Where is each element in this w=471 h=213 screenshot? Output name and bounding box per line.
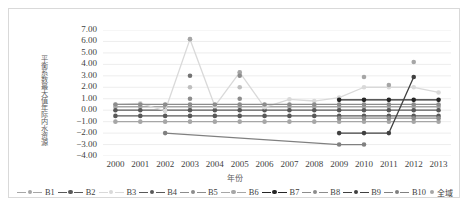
legend-label: B10 — [412, 188, 426, 197]
legend-item[interactable]: B3 — [99, 188, 137, 197]
legend-marker-icon — [231, 190, 235, 194]
data-point — [411, 98, 416, 103]
y-tick-label: 7.00 — [81, 25, 97, 34]
data-point — [262, 119, 267, 124]
data-point — [213, 108, 218, 113]
legend-item[interactable]: B5 — [180, 188, 218, 197]
data-point — [362, 131, 367, 136]
y-tick-label: −4.00 — [76, 151, 97, 160]
data-point — [411, 60, 416, 65]
data-point — [362, 116, 367, 121]
data-point — [138, 102, 143, 107]
legend-line-icon — [343, 192, 352, 193]
data-point — [411, 85, 416, 90]
legend-item[interactable]: B2 — [58, 188, 96, 197]
data-point — [262, 102, 267, 107]
y-axis-title-line1: 年际内水资源 — [40, 104, 47, 146]
y-tick-label: −1.00 — [76, 117, 97, 126]
legend-marker-icon — [68, 190, 72, 194]
y-axis-title: 平衡系数最大值 年际内水资源 — [31, 47, 57, 153]
legend-item[interactable]: B7 — [262, 188, 300, 197]
x-tick-label: 2013 — [430, 159, 448, 169]
data-point — [436, 90, 441, 95]
legend-label: B2 — [86, 188, 96, 197]
legend-label: B8 — [330, 188, 340, 197]
y-tick-label: 2.00 — [81, 82, 97, 91]
legend-line-icon — [384, 192, 393, 193]
data-point — [188, 119, 193, 124]
legend-marker-icon — [313, 190, 317, 194]
legend-label: B6 — [249, 188, 259, 197]
legend-label: B4 — [167, 188, 177, 197]
legend-line-icon — [156, 192, 165, 193]
data-point — [237, 96, 242, 101]
data-point — [262, 114, 267, 119]
legend-item[interactable]: B9 — [343, 188, 381, 197]
data-point — [237, 74, 242, 79]
legend-marker-icon — [191, 190, 195, 194]
legend-label: B3 — [126, 188, 136, 197]
y-tick-label: 1.00 — [81, 94, 97, 103]
legend-item[interactable]: B4 — [139, 188, 177, 197]
legend-line-icon — [33, 192, 42, 193]
data-point — [237, 108, 242, 113]
legend-item[interactable]: B8 — [302, 188, 340, 197]
legend-label: B1 — [45, 188, 55, 197]
data-point — [362, 108, 367, 113]
data-point — [387, 116, 392, 121]
data-point — [337, 142, 342, 147]
legend-line-icon — [197, 192, 206, 193]
legend-item[interactable]: B6 — [221, 188, 259, 197]
data-point — [188, 85, 193, 90]
chart-svg — [103, 30, 451, 156]
chart-frame: 平衡系数最大值 年际内水资源 7.006.005.004.003.002.001… — [8, 8, 460, 198]
data-point — [436, 102, 441, 107]
y-tick-label: −3.00 — [76, 140, 97, 149]
data-point — [337, 98, 342, 103]
y-tick-label: 5.00 — [81, 48, 97, 57]
data-point — [387, 98, 392, 103]
legend-item[interactable]: B10 — [384, 188, 426, 197]
data-point — [337, 131, 342, 136]
data-point — [387, 102, 392, 107]
data-point — [362, 75, 367, 80]
data-point — [436, 98, 441, 103]
data-point — [138, 114, 143, 119]
data-point — [337, 102, 342, 107]
data-point — [188, 108, 193, 113]
y-axis-tick-labels: 7.006.005.004.003.002.001.000.00−1.00−2.… — [57, 27, 101, 159]
line-chart: 平衡系数最大值 年际内水资源 7.006.005.004.003.002.001… — [9, 9, 461, 199]
legend-line-icon — [139, 192, 148, 193]
data-point — [188, 37, 193, 42]
data-point — [312, 108, 317, 113]
x-tick-label: 2000 — [106, 159, 124, 169]
legend-line-icon — [180, 192, 189, 193]
data-point — [237, 114, 242, 119]
legend-marker-icon — [430, 190, 434, 194]
data-point — [138, 119, 143, 124]
data-point — [287, 97, 292, 102]
data-point — [312, 114, 317, 119]
y-tick-label: 3.00 — [81, 71, 97, 80]
legend-line-icon — [17, 192, 26, 193]
data-point — [213, 119, 218, 124]
legend-line-icon — [302, 192, 311, 193]
x-tick-label: 2012 — [405, 159, 423, 169]
x-tick-label: 2009 — [330, 159, 348, 169]
data-point — [436, 108, 441, 113]
y-tick-label: 0.00 — [81, 105, 97, 114]
legend-item[interactable]: 全域 — [429, 187, 453, 198]
data-point — [362, 102, 367, 107]
data-point — [387, 108, 392, 113]
legend-marker-icon — [272, 190, 276, 194]
x-axis-title: 年份 — [9, 172, 461, 183]
x-tick-label: 2011 — [380, 159, 398, 169]
legend-item[interactable]: B1 — [17, 188, 55, 197]
data-point — [188, 102, 193, 107]
legend-marker-icon — [28, 190, 32, 194]
x-tick-label: 2007 — [280, 159, 298, 169]
legend-line-icon — [58, 192, 67, 193]
legend-line-icon — [237, 192, 246, 193]
x-tick-label: 2006 — [256, 159, 274, 169]
data-point — [312, 102, 317, 107]
